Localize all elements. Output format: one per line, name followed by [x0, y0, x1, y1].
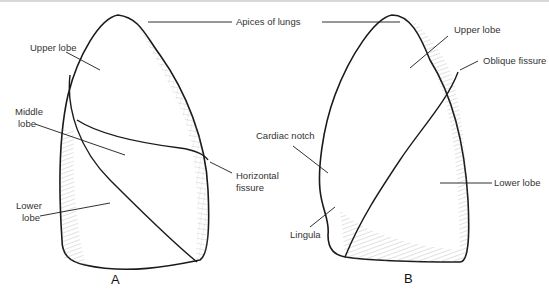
label-horizontal-fissure-line2: fissure — [236, 182, 264, 193]
label-upper-lobe-a: Upper lobe — [30, 42, 76, 53]
label-upper-lobe-b: Upper lobe — [454, 24, 500, 35]
label-middle-lobe-a-line1: Middle — [15, 106, 43, 117]
label-lower-lobe-a-line2: lobe — [22, 212, 40, 223]
label-lower-lobe-b: Lower lobe — [494, 177, 540, 188]
label-lingula: Lingula — [290, 229, 321, 240]
lung-illustration — [0, 0, 549, 294]
label-oblique-fissure: Oblique fissure — [483, 55, 546, 66]
right-lung-a — [60, 15, 209, 269]
label-lower-lobe-a-line1: Lower — [16, 200, 42, 211]
left-lung-b — [320, 15, 469, 262]
label-cardiac-notch: Cardiac notch — [256, 130, 315, 141]
caption-a: A — [111, 272, 120, 287]
label-middle-lobe-a-line2: lobe — [18, 118, 36, 129]
caption-b: B — [404, 271, 413, 286]
label-apices-of-lungs: Apices of lungs — [236, 16, 300, 27]
label-horizontal-fissure-line1: Horizontal — [236, 170, 279, 181]
